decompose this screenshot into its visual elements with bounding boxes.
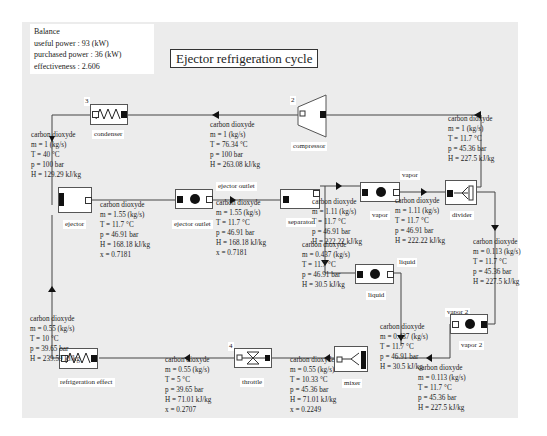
- stream-refrigeration-out: carbon dioxydem = 0.55 (kg/s)T = 10 °Cp …: [30, 314, 80, 364]
- vapor2-outlet-port[interactable]: [452, 321, 459, 328]
- stream-divider-to-compressor: carbon dioxydem = 1 (kg/s)T = 11.7 °Cp =…: [448, 114, 494, 164]
- vapor-inlet-port[interactable]: [362, 189, 368, 196]
- compressor-label: compressor: [291, 142, 327, 151]
- condenser-label: condenser: [92, 130, 124, 139]
- node-dot-icon: [190, 194, 200, 204]
- stream-vapor-out: carbon dioxydem = 1.11 (kg/s)T = 11.7 °C…: [395, 196, 445, 246]
- effectiveness: effectiveness : 2.606: [34, 61, 150, 73]
- condenser[interactable]: [90, 104, 128, 125]
- ejector-outlet-label: ejector outlet: [172, 220, 213, 229]
- ejector-label: ejector: [63, 220, 86, 229]
- vapor2-node[interactable]: [450, 314, 488, 334]
- ejector-inlet-port[interactable]: [59, 193, 64, 206]
- refrigeration-effect-label: refrigeration effect: [58, 378, 115, 387]
- divider-label: divider: [450, 211, 474, 220]
- liquid-port-label: liquid: [397, 258, 417, 267]
- ejector-outlet-out-port[interactable]: [206, 196, 213, 203]
- splitter-icon: [454, 183, 476, 203]
- ejector-outlet-port[interactable]: [85, 197, 92, 204]
- refrigeration-outlet-port[interactable]: [91, 355, 97, 362]
- stream-mixer-out: carbon dioxydem = 0.55 (kg/s)T = 10.33 °…: [290, 355, 336, 415]
- liquid-inlet-port[interactable]: [357, 271, 363, 278]
- useful-power: useful power : 93 (kW): [34, 38, 150, 50]
- liquid-node[interactable]: [355, 264, 394, 284]
- purchased-power: purchased power : 36 (kW): [34, 49, 150, 61]
- stream-throttle-out: carbon dioxydem = 0.55 (kg/s)T = 5 °Cp =…: [165, 355, 211, 415]
- stream-divider-to-vapor2: carbon dioxydem = 0.113 (kg/s)T = 11.7 °…: [473, 237, 521, 287]
- vapor2-label: vapor 2: [459, 341, 484, 350]
- vapor-outlet-port[interactable]: [393, 189, 400, 196]
- ejector[interactable]: [58, 187, 92, 213]
- node-dot-icon: [376, 187, 386, 197]
- divider[interactable]: [445, 180, 477, 205]
- balance-panel: Balance useful power : 93 (kW) purchased…: [30, 24, 154, 74]
- compressor-number: 2: [290, 96, 296, 105]
- throttle[interactable]: [234, 348, 272, 368]
- liquid-label: liquid: [366, 291, 386, 300]
- node-dot-icon: [465, 319, 475, 329]
- mixer[interactable]: [334, 346, 368, 372]
- vapor-port-label: vapor: [400, 171, 420, 180]
- vapor-node[interactable]: [360, 182, 400, 202]
- diagram-title: Ejector refrigeration cycle: [170, 49, 318, 68]
- node-dot-icon: [370, 269, 380, 279]
- vapor2-inlet-port[interactable]: [481, 321, 487, 328]
- ejector-outlet-in-port[interactable]: [177, 196, 183, 203]
- stream-ejector-outlet-out: carbon dioxydem = 1.55 (kg/s)T = 11.7 °C…: [216, 198, 266, 258]
- condenser-outlet-port[interactable]: [121, 111, 127, 118]
- stream-vapor2-out: carbon dioxydem = 0.113 (kg/s)T = 11.7 °…: [418, 363, 466, 413]
- mixer-label: mixer: [342, 379, 362, 388]
- throttle-valve-icon: [235, 349, 271, 367]
- stream-compressor-out: carbon dioxydem = 1 (kg/s)T = 76.34 °Cp …: [210, 120, 260, 170]
- throttle-number: 4: [228, 342, 234, 351]
- stream-ejector-out: carbon dioxydem = 1.55 (kg/s)T = 11.7 °C…: [100, 200, 150, 260]
- separator-inlet-port[interactable]: [283, 196, 289, 203]
- balance-heading: Balance: [34, 26, 150, 38]
- ejector-outlet[interactable]: [175, 189, 213, 209]
- divider-inlet-port[interactable]: [447, 190, 453, 197]
- compressor[interactable]: [296, 93, 328, 141]
- condenser-number: 3: [84, 97, 90, 106]
- stream-condenser-out: carbon dioxydem = 1 (kg/s)T = 40 °Cp = 1…: [31, 130, 81, 180]
- ejector-outlet-port-label: ejector outlet: [216, 182, 257, 191]
- throttle-label: throttle: [240, 378, 264, 387]
- stream-separator-liquid: carbon dioxydem = 0.437 (kg/s)T = 11.7 °…: [302, 240, 350, 290]
- liquid-outlet-port[interactable]: [387, 271, 394, 278]
- mixer-icon: [335, 349, 367, 371]
- vapor-label: vapor: [370, 211, 390, 220]
- separator-vapor-port[interactable]: [313, 190, 320, 197]
- condenser-inlet-port[interactable]: [92, 111, 99, 118]
